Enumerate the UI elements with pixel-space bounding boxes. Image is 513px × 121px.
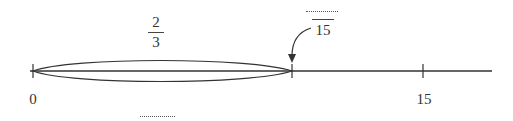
ellipse-fraction-denominator: 3 [148,35,164,50]
axis-label-15: 15 [413,92,435,107]
answer-blank[interactable] [140,116,175,117]
arrow-curve [292,28,311,56]
fraction-bar [148,32,164,33]
axis-label-0: 0 [25,92,41,107]
number-line-diagram [0,0,513,121]
pointer-fraction-denominator: 15 [312,23,334,38]
ellipse-fraction: 2 3 [148,15,164,50]
ellipse-fraction-numerator: 2 [148,15,164,30]
pointer-numerator-blank[interactable] [306,11,338,12]
pointer-fraction-bar [312,19,334,20]
arrowhead-icon [288,54,296,63]
